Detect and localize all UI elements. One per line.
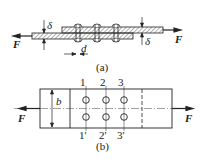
figure-a: δ δ d F F (a) [12,17,183,74]
thickness-label-top: δ [47,19,53,31]
section-label-3-prime: 3' [117,129,125,141]
force-label-right-b: F [184,112,193,124]
section-label-1-prime: 1' [79,129,87,141]
section-label-3: 3 [118,76,124,88]
caption-a: (a) [96,61,109,74]
section-label-2: 2 [100,76,106,88]
width-label: b [56,95,62,107]
figure-b: b 1 2 3 1' 2' 3' F F (b) [14,76,194,153]
force-label-right-a: F [174,33,183,45]
force-label-left-a: F [12,38,21,50]
thickness-label-bottom: δ [145,35,151,47]
rivet-diameter-label: d [81,42,87,54]
force-label-left-b: F [17,112,26,124]
top-plate [62,27,163,33]
section-label-1: 1 [80,76,86,88]
riveted-joint-diagram: δ δ d F F (a) b 1 2 3 1' 2' 3' [0,0,206,168]
caption-b: (b) [96,140,109,153]
